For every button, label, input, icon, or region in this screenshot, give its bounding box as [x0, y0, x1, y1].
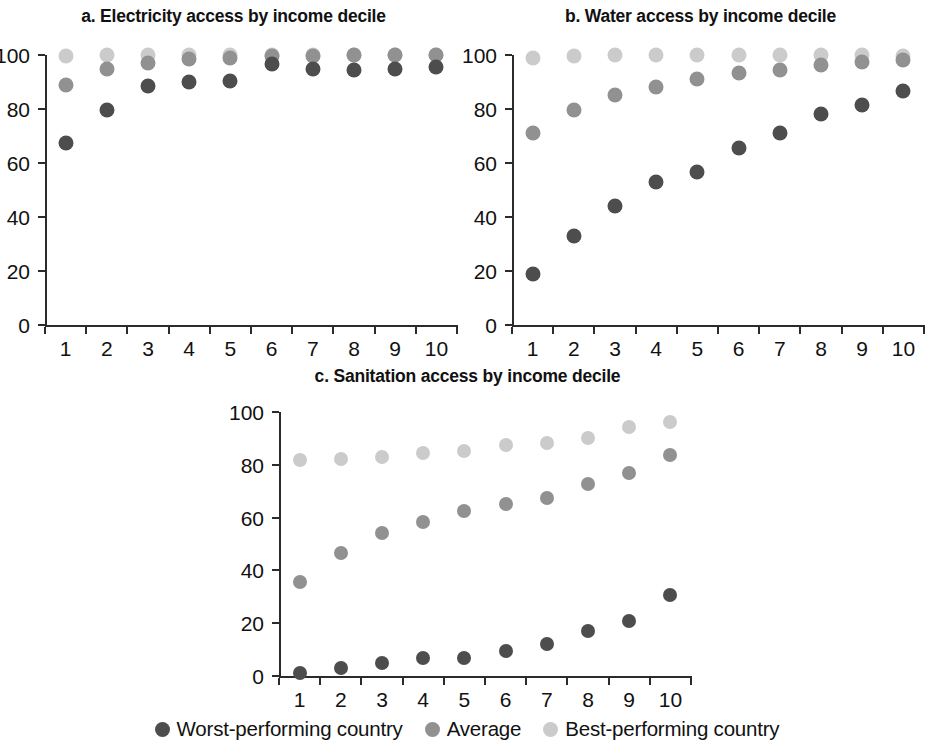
- panel-a-plot-area: 02040608010012345678910: [45, 55, 457, 325]
- legend-label-best: Best-performing country: [565, 717, 779, 741]
- x-axis-tick: [758, 327, 760, 334]
- data-point-worst: [772, 125, 787, 140]
- data-point-worst: [622, 614, 636, 628]
- x-axis-tick: [525, 678, 527, 685]
- data-point-worst: [608, 199, 623, 214]
- x-axis-tick: [374, 327, 376, 334]
- data-point-average: [896, 52, 911, 67]
- panel-c-plot-area: 02040608010012345678910: [279, 412, 691, 676]
- x-axis-tick-label: 7: [774, 338, 786, 359]
- data-point-best: [663, 415, 677, 429]
- x-axis-tick: [360, 678, 362, 685]
- data-point-best: [525, 50, 540, 65]
- x-axis-tick-label: 3: [376, 689, 388, 710]
- y-axis-tick-label: 20: [7, 261, 30, 282]
- data-point-worst: [649, 174, 664, 189]
- data-point-worst: [690, 164, 705, 179]
- panel-c-title: c. Sanitation access by income decile: [234, 366, 701, 387]
- data-point-average: [141, 56, 156, 71]
- y-axis-tick: [272, 411, 279, 413]
- y-axis-tick-label: 40: [7, 207, 30, 228]
- data-point-average: [814, 57, 829, 72]
- x-axis-tick: [635, 327, 637, 334]
- data-point-average: [457, 504, 471, 518]
- data-point-worst: [525, 267, 540, 282]
- data-point-best: [731, 48, 746, 63]
- x-axis-tick-label: 5: [225, 338, 237, 359]
- x-axis-tick: [209, 327, 211, 334]
- data-point-average: [581, 477, 595, 491]
- x-axis-tick: [456, 327, 458, 334]
- y-axis-tick: [505, 162, 512, 164]
- panel-b-title: b. Water access by income decile: [467, 6, 934, 27]
- x-axis-tick: [923, 327, 925, 334]
- x-axis-tick: [332, 327, 334, 334]
- data-point-best: [540, 436, 554, 450]
- data-point-worst: [347, 62, 362, 77]
- x-axis-tick: [168, 327, 170, 334]
- legend-item-best: Best-performing country: [543, 717, 779, 741]
- y-axis-tick-label: 60: [241, 507, 264, 528]
- data-point-best: [457, 444, 471, 458]
- panel-b-plot-area: 02040608010012345678910: [512, 55, 924, 325]
- x-axis-tick-label: 9: [389, 338, 401, 359]
- y-axis-tick: [505, 324, 512, 326]
- y-axis-tick: [272, 622, 279, 624]
- data-point-best: [581, 431, 595, 445]
- y-axis-tick: [38, 162, 45, 164]
- data-point-best: [649, 48, 664, 63]
- x-axis-tick: [649, 678, 651, 685]
- x-axis-tick: [799, 327, 801, 334]
- x-axis-tick-label: 10: [425, 338, 448, 359]
- legend-label-worst: Worst-performing country: [177, 717, 403, 741]
- data-point-best: [622, 420, 636, 434]
- chart-panel-b: b. Water access by income decile 0204060…: [467, 6, 934, 351]
- x-axis-tick-label: 4: [417, 689, 429, 710]
- x-axis-tick: [415, 327, 417, 334]
- x-axis-tick-label: 2: [568, 338, 580, 359]
- data-point-average: [347, 48, 362, 63]
- x-axis-tick-label: 9: [623, 689, 635, 710]
- data-point-worst: [58, 135, 73, 150]
- x-axis-tick-label: 7: [307, 338, 319, 359]
- x-axis-tick-label: 1: [294, 689, 306, 710]
- y-axis-tick-label: 40: [474, 207, 497, 228]
- x-axis-tick: [882, 327, 884, 334]
- data-point-average: [525, 126, 540, 141]
- y-axis-tick: [38, 108, 45, 110]
- y-axis-tick: [38, 216, 45, 218]
- data-point-best: [334, 452, 348, 466]
- legend-label-average: Average: [447, 717, 522, 741]
- x-axis-tick-label: 1: [60, 338, 72, 359]
- data-point-average: [663, 448, 677, 462]
- y-axis-tick: [272, 675, 279, 677]
- data-point-average: [499, 497, 513, 511]
- y-axis-tick-label: 20: [474, 261, 497, 282]
- data-point-worst: [141, 79, 156, 94]
- data-point-average: [772, 63, 787, 78]
- x-axis-tick: [566, 678, 568, 685]
- x-axis-tick-label: 8: [815, 338, 827, 359]
- y-axis-tick-label: 0: [485, 315, 497, 336]
- data-point-average: [334, 546, 348, 560]
- data-point-average: [566, 102, 581, 117]
- x-axis-tick-label: 5: [459, 689, 471, 710]
- data-point-average: [649, 79, 664, 94]
- x-axis-tick: [319, 678, 321, 685]
- data-point-worst: [223, 73, 238, 88]
- x-axis-tick-label: 4: [183, 338, 195, 359]
- chart-panel-c: c. Sanitation access by income decile 02…: [234, 366, 701, 706]
- data-point-worst: [896, 83, 911, 98]
- data-point-average: [608, 87, 623, 102]
- x-axis-tick: [443, 678, 445, 685]
- data-point-average: [223, 50, 238, 65]
- y-axis-tick: [505, 270, 512, 272]
- data-point-worst: [264, 57, 279, 72]
- data-point-worst: [731, 141, 746, 156]
- y-axis-tick-label: 80: [241, 454, 264, 475]
- x-axis-tick: [511, 327, 513, 334]
- y-axis-line: [512, 55, 514, 326]
- x-axis-tick: [717, 327, 719, 334]
- y-axis-tick: [38, 54, 45, 56]
- data-point-worst: [334, 661, 348, 675]
